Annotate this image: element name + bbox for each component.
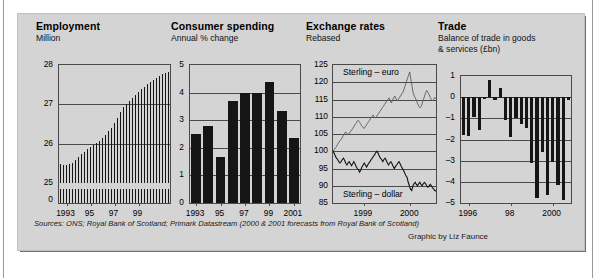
y-axis-tick-label: 0: [438, 91, 455, 101]
x-tick: [469, 203, 470, 206]
bar-stub: [138, 189, 140, 203]
bar: [472, 97, 475, 117]
y-axis-tick-label: 0: [171, 197, 184, 207]
bar: [159, 76, 161, 183]
bar-stub: [159, 189, 161, 203]
bar-stub: [120, 189, 122, 203]
bar: [114, 123, 116, 183]
chart-title: Consumer spending: [171, 20, 311, 32]
bar-stub: [168, 189, 170, 203]
bar-stub: [99, 189, 101, 203]
y-axis-tick-label: 110: [306, 111, 328, 121]
y-axis-tick-label: 4: [171, 87, 184, 97]
x-tick: [364, 203, 365, 206]
bar: [90, 147, 92, 183]
bar-stub: [111, 189, 113, 203]
bar: [462, 97, 465, 135]
bar: [228, 101, 238, 203]
bar-stub: [147, 189, 149, 203]
y-axis-tick-label: 1: [171, 169, 184, 179]
y-axis-tick-label: 1: [438, 70, 455, 80]
bar: [108, 131, 110, 183]
bar-stub: [135, 189, 137, 203]
bar: [69, 164, 71, 183]
bar: [541, 97, 544, 152]
y-axis-tick-label: –4: [438, 176, 455, 186]
bar: [123, 107, 125, 183]
bar-stub: [132, 189, 134, 203]
y-axis-tick-label: 25: [36, 177, 53, 187]
exchange-rate-lines: [333, 65, 436, 203]
y-axis-tick-label: 105: [306, 128, 328, 138]
bar-stub: [114, 189, 116, 203]
bar-stub: [150, 189, 152, 203]
chart-subtitle: Balance of trade in goods & services (£b…: [438, 33, 584, 54]
bar-stub: [87, 189, 89, 203]
bar-stub: [123, 189, 125, 203]
series-line: [333, 72, 436, 151]
bar: [165, 73, 167, 183]
bar-stub: [129, 189, 131, 203]
bar: [78, 157, 80, 183]
bar-stub: [165, 189, 167, 203]
bar: [520, 97, 523, 123]
column-rule-left: [3, 0, 4, 278]
bar: [93, 145, 95, 183]
bar: [530, 97, 533, 163]
bar-stub: [96, 189, 98, 203]
y-axis-tick-label: 120: [306, 76, 328, 86]
bar-stub: [72, 189, 74, 203]
bar: [562, 97, 565, 200]
bar: [203, 126, 213, 203]
bar-stub: [102, 189, 104, 203]
y-axis-tick-label: 115: [306, 94, 328, 104]
bar: [129, 101, 131, 183]
y-axis-tick-label: 3: [171, 114, 184, 124]
bar: [289, 138, 299, 203]
chart-subtitle-line2: & services (£bn): [438, 44, 500, 54]
x-tick: [67, 203, 68, 206]
bar: [87, 149, 89, 183]
charts-row: Employment Million 2827262501993959799 C…: [18, 14, 584, 214]
y-axis-tick-label: –3: [438, 155, 455, 165]
plot-area-trade: [460, 75, 572, 204]
bar: [252, 93, 262, 203]
chart-exchange-rates: Exchange rates Rebased Sterling – euroSt…: [306, 20, 446, 44]
chart-title: Exchange rates: [306, 20, 446, 32]
bar: [567, 97, 570, 100]
bar: [144, 87, 146, 183]
y-axis-tick-label: 90: [306, 180, 328, 190]
bar-stub: [126, 189, 128, 203]
y-axis-tick-label: 27: [36, 98, 53, 108]
x-tick: [139, 203, 140, 206]
y-axis-tick-label: 85: [306, 197, 328, 207]
bar: [153, 80, 155, 183]
graphic-page: Employment Million 2827262501993959799 C…: [0, 0, 598, 278]
bar: [126, 104, 128, 183]
bar-stub: [144, 189, 146, 203]
bar: [156, 78, 158, 183]
bar: [135, 95, 137, 183]
bar-stub: [75, 189, 77, 203]
bar: [66, 165, 68, 183]
bar: [132, 98, 134, 183]
x-tick: [269, 203, 270, 206]
bar-stub: [90, 189, 92, 203]
bar-stub: [60, 189, 62, 203]
bar: [240, 93, 250, 203]
bar: [509, 97, 512, 137]
bar: [120, 112, 122, 183]
x-tick: [115, 203, 116, 206]
bar: [63, 165, 65, 183]
gridline: [461, 161, 571, 162]
bar-stub: [156, 189, 158, 203]
gridline: [461, 182, 571, 183]
bar: [499, 88, 502, 98]
sources-note: Sources: ONS; Royal Bank of Scotland; Pr…: [34, 219, 419, 228]
annotation-sterling-euro: Sterling – euro: [341, 67, 401, 77]
chart-subtitle: Annual % change: [171, 33, 311, 44]
bar: [277, 111, 287, 203]
bar-stub: [105, 189, 107, 203]
bar-stub: [69, 189, 71, 203]
bar: [493, 97, 496, 100]
